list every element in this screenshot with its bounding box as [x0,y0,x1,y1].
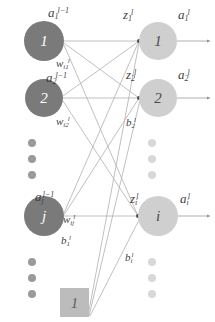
label-a1: a1l [178,6,190,23]
label-w-i2: wi2l [56,112,70,129]
label-z2: z2l [126,66,136,83]
bias-unit-value: 1 [71,296,78,311]
label-w-i1: wi1l [56,54,70,71]
label-a2: a2l [178,66,190,83]
label-zi: zil [130,190,139,207]
right-dot-5 [148,274,156,282]
node-left-1-label: 1 [40,33,48,49]
left-dot-2 [28,155,36,163]
label-aj-prev: ajl−1 [35,188,54,205]
right-dot-4 [148,258,156,266]
left-dot-3 [28,171,36,179]
left-dot-6 [28,290,36,298]
left-dot-1 [28,139,36,147]
node-right-1-label: 1 [154,33,162,49]
right-dot-2 [148,155,156,163]
label-w-ij: wijl [63,210,75,227]
neural-network-diagram: 1 2 j 1 2 i [0,0,215,322]
label-b-1: b1l [61,231,71,248]
right-layer-nodes: 1 2 i [138,22,178,236]
label-ai: ail [180,190,190,207]
label-z1: z1l [123,6,133,23]
node-right-i-label: i [156,208,160,224]
edge-bias-r1 [88,43,139,316]
right-dot-3 [148,171,156,179]
label-b-2: b2l [126,113,136,130]
network-canvas: 1 2 j 1 2 i [0,0,215,322]
right-dot-6 [148,290,156,298]
label-a1-prev: a1l−1 [48,4,69,21]
left-dot-5 [28,274,36,282]
node-right-2-label: 2 [154,90,162,106]
node-left-2-label: 2 [40,90,48,106]
left-dot-4 [28,258,36,266]
label-b-i: bil [125,248,133,265]
right-dot-1 [148,139,156,147]
bias-unit[interactable]: 1 [60,288,89,317]
label-a2-prev: a2l−1 [46,69,67,86]
